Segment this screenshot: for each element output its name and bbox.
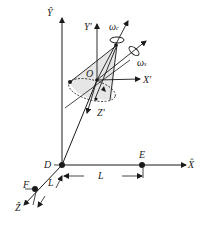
label-z-hat: Ẑ (15, 203, 21, 213)
point-f (32, 186, 38, 192)
omega-c-subscript: c (116, 25, 119, 31)
label-z-prime: Z' (97, 108, 105, 118)
label-point-d: D (44, 160, 51, 170)
label-y-prime: Y' (84, 22, 92, 32)
cone-base-point (68, 80, 72, 84)
omega-s-subscript: s (144, 61, 146, 67)
dim-df-up-arrow (56, 176, 62, 188)
label-origin: O (86, 69, 93, 79)
point-e (139, 162, 145, 168)
z-prime-point (94, 97, 97, 100)
label-omega-c: ωc (109, 22, 119, 33)
label-x-prime: X' (143, 75, 151, 85)
label-length-de: L (98, 171, 104, 181)
omega-s-symbol: ω (137, 57, 144, 68)
dim-df-down-arrow (38, 196, 45, 207)
omega-c-symbol: ω (109, 21, 116, 32)
label-y-hat: Ŷ (47, 8, 53, 18)
label-point-e: E (139, 150, 145, 160)
diagram-canvas: Ŷ Y' ωc ωs O X' Z' D E X̂ L F L Ẑ (0, 0, 206, 226)
label-point-f: F (23, 180, 29, 190)
label-omega-s: ωs (137, 58, 146, 69)
label-length-df: L (48, 178, 54, 188)
label-x-hat: X̂ (188, 160, 194, 170)
origin-point (95, 78, 99, 82)
